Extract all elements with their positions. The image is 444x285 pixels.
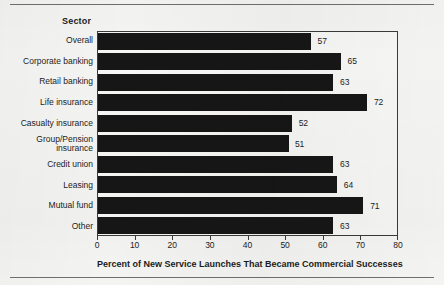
x-axis-tick-label: 30 (205, 240, 214, 250)
bar-row (98, 53, 397, 70)
x-axis-tick-label: 10 (130, 240, 139, 250)
x-axis-tick-label: 50 (280, 240, 289, 250)
bar (98, 197, 363, 214)
category-label: Retail banking (0, 73, 93, 90)
chart-figure: Sector OverallCorporate bankingRetail ba… (0, 0, 444, 285)
bar (98, 94, 367, 111)
bar-row (98, 74, 397, 91)
sector-column-heading: Sector (62, 16, 91, 26)
x-axis: 01020304050607080 (97, 236, 398, 252)
bar-row (98, 217, 397, 234)
category-label: Mutual fund (0, 197, 93, 214)
category-label: Corporate banking (0, 53, 93, 70)
category-label: Credit union (0, 156, 93, 173)
bar (98, 33, 311, 50)
bar-row (98, 115, 397, 132)
category-label: Overall (0, 32, 93, 49)
category-label: Group/Pension insurance (0, 135, 93, 152)
category-label: Casualty insurance (0, 115, 93, 132)
bar-series (98, 32, 397, 235)
category-axis-labels: OverallCorporate bankingRetail bankingLi… (0, 31, 93, 236)
x-axis-tick-label: 80 (393, 240, 402, 250)
bar (98, 217, 333, 234)
category-label: Leasing (0, 177, 93, 194)
bar-row (98, 156, 397, 173)
bar-row (98, 94, 397, 111)
divider-top (10, 4, 434, 5)
x-axis-title: Percent of New Service Launches That Bec… (97, 259, 398, 269)
bar (98, 53, 341, 70)
category-label: Other (0, 218, 93, 235)
bar-row (98, 33, 397, 50)
x-axis-tick-label: 0 (95, 240, 100, 250)
x-axis-tick-label: 40 (243, 240, 252, 250)
x-axis-tick-label: 20 (168, 240, 177, 250)
bar (98, 156, 333, 173)
bar (98, 115, 292, 132)
plot-area (97, 31, 398, 236)
x-axis-tick-label: 70 (356, 240, 365, 250)
bar (98, 135, 289, 152)
divider-bottom (10, 277, 434, 278)
bar (98, 74, 333, 91)
category-label: Life insurance (0, 94, 93, 111)
bar-row (98, 197, 397, 214)
bar (98, 176, 337, 193)
x-axis-tick-label: 60 (318, 240, 327, 250)
bar-row (98, 176, 397, 193)
bar-row (98, 135, 397, 152)
